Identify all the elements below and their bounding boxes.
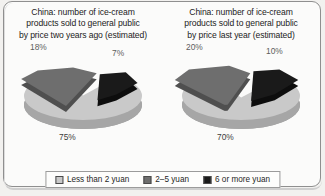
chart-title-left: China: number of ice-cream products sold… <box>6 7 160 41</box>
legend-item-less-than-2-yuan: Less than 2 yuan <box>55 175 129 184</box>
pie-chart-last-year: China: number of ice-cream products sold… <box>162 2 320 162</box>
pie-slice-right-6-or-more-yuan-top <box>185 55 303 103</box>
pie-label-left-less-than-2-yuan: 75% <box>59 132 76 142</box>
pie-slice-left-6-or-more-yuan-top <box>29 56 147 104</box>
legend-swatch-less-than-2-yuan <box>55 176 63 184</box>
legend-item-2-5-yuan: 2–5 yuan <box>143 175 189 184</box>
legend-label-less-than-2-yuan: Less than 2 yuan <box>67 175 129 184</box>
charts-row: China: number of ice-cream products sold… <box>4 2 320 162</box>
legend-item-6-or-more-yuan: 6 or more yuan <box>203 175 270 184</box>
pie-slice-right-6-or-more-yuan <box>185 55 303 103</box>
legend-label-2-5-yuan: 2–5 yuan <box>155 175 189 184</box>
chart-legend: Less than 2 yuan 2–5 yuan 6 or more yuan <box>45 171 280 188</box>
legend-swatch-2-5-yuan <box>143 176 151 184</box>
pie-chart-two-years-ago: China: number of ice-cream products sold… <box>4 2 162 162</box>
legend-label-6-or-more-yuan: 6 or more yuan <box>215 175 270 184</box>
chart-title-right-line2: products sold to general public <box>164 18 318 29</box>
chart-title-left-line2: products sold to general public <box>6 18 160 29</box>
chart-title-left-line1: China: number of ice-cream <box>6 7 160 18</box>
pie-label-right-less-than-2-yuan: 70% <box>217 132 234 142</box>
chart-title-right-line3: by price last year (estimated) <box>164 30 318 41</box>
pie-stage-right: 20% 10% 70% <box>162 42 320 146</box>
chart-title-right: China: number of ice-cream products sold… <box>164 7 318 41</box>
figure-page: China: number of ice-cream products sold… <box>0 0 325 196</box>
pie-slice-left-6-or-more-yuan <box>29 56 147 104</box>
pie-label-left-2-5-yuan: 18% <box>30 42 47 52</box>
chart-title-right-line1: China: number of ice-cream <box>164 7 318 18</box>
chart-title-left-line3: by price two years ago (estimated) <box>6 30 160 41</box>
legend-swatch-6-or-more-yuan <box>203 176 211 184</box>
pie-label-right-2-5-yuan: 20% <box>186 42 203 52</box>
pie-stage-left: 18% 7% 75% <box>4 42 162 146</box>
